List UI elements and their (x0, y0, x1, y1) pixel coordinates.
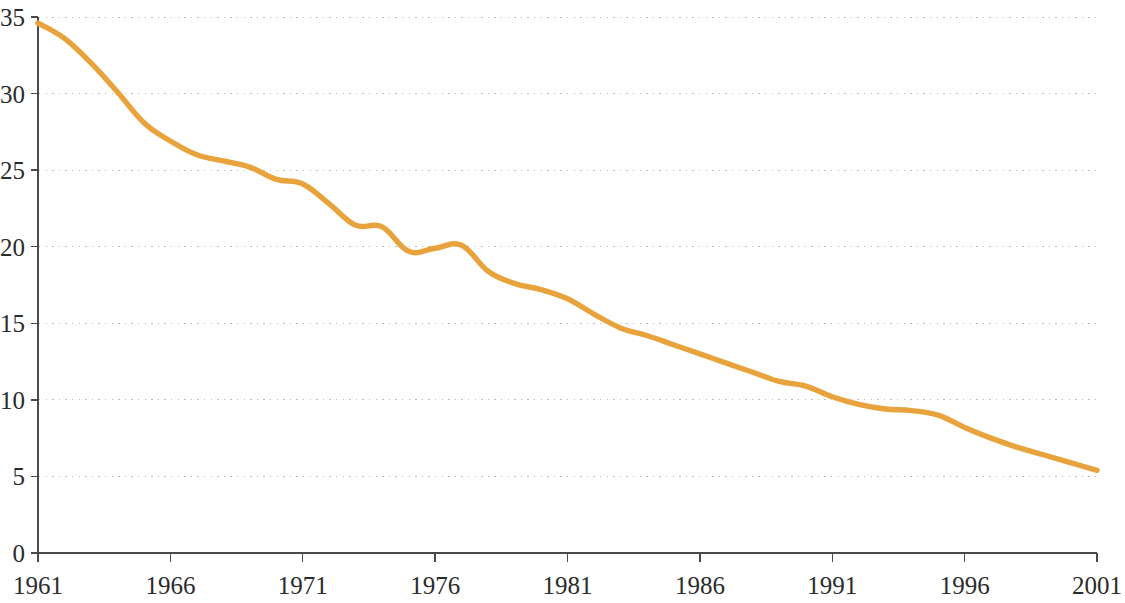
x-tick-label: 1971 (278, 573, 328, 598)
x-tick-label: 1981 (543, 573, 593, 598)
y-tick-label: 15 (0, 311, 25, 336)
y-tick-label: 30 (0, 81, 25, 106)
y-tick-label: 10 (0, 387, 25, 412)
y-tick-label: 35 (0, 5, 25, 30)
axes (38, 17, 1097, 553)
axis-ticks (31, 17, 1097, 562)
x-tick-label: 1976 (410, 573, 460, 598)
y-tick-label: 20 (0, 234, 25, 259)
x-tick-label: 1966 (145, 573, 195, 598)
y-tick-label: 5 (0, 464, 25, 489)
y-tick-label: 0 (0, 541, 25, 566)
chart-plot-area (0, 0, 1125, 603)
x-tick-label: 1996 (940, 573, 990, 598)
x-tick-label: 2001 (1072, 573, 1122, 598)
x-tick-label: 1961 (13, 573, 63, 598)
x-tick-label: 1986 (675, 573, 725, 598)
gridlines (39, 17, 1097, 476)
x-tick-label: 1991 (807, 573, 857, 598)
y-tick-label: 25 (0, 158, 25, 183)
line-chart: 05101520253035 1961196619711976198119861… (0, 0, 1125, 603)
